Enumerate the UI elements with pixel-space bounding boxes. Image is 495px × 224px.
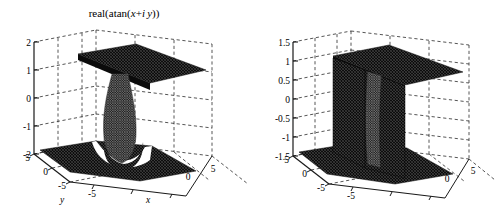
y-tick-label: 5 bbox=[284, 155, 289, 165]
z-tick-label: 0.5 bbox=[278, 76, 290, 86]
z-axis-ticks-left bbox=[34, 42, 39, 154]
x-tick-label: -5 bbox=[347, 191, 355, 201]
y-tick-label: -5 bbox=[317, 183, 325, 193]
axes-right: 1.5 1 0.5 0 -0.5 -1 -1.5 5 0 -5 bbox=[247, 0, 495, 224]
plot-panel-right: 1.5 1 0.5 0 -0.5 -1 -1.5 5 0 -5 bbox=[247, 0, 495, 224]
surface-left bbox=[40, 44, 206, 181]
z-axis-ticks-right bbox=[293, 42, 298, 156]
x-tick-label: 5 bbox=[211, 164, 216, 174]
z-tick-label: 0 bbox=[285, 95, 290, 105]
x-tick-label: 5 bbox=[471, 166, 476, 176]
axes-left: 2 1 0 -1 -2 5 0 -5 y bbox=[0, 0, 248, 224]
surface-wall-highlight-right bbox=[366, 72, 381, 167]
z-tick-label: 1 bbox=[26, 66, 31, 76]
x-axis-label-left: x bbox=[145, 195, 151, 205]
y-tick-label: 0 bbox=[302, 169, 307, 179]
figure-canvas: real(atan(x+i y)) bbox=[0, 0, 495, 224]
x-axis-ticks-right bbox=[351, 187, 431, 200]
z-tick-label: 1 bbox=[285, 57, 290, 67]
x-tick-label: -5 bbox=[88, 189, 96, 199]
z-axis-ticklabels-right: 1.5 1 0.5 0 -0.5 -1 -1.5 bbox=[275, 38, 290, 162]
z-tick-label: -0.5 bbox=[275, 114, 290, 124]
x-tick-label: 0 bbox=[186, 172, 191, 182]
y-tick-label: 5 bbox=[25, 153, 30, 163]
y-tick-label: -5 bbox=[58, 181, 66, 191]
z-tick-label: 1.5 bbox=[278, 38, 290, 48]
surface-wall-left-right bbox=[333, 58, 365, 168]
plot-panel-left: real(atan(x+i y)) bbox=[0, 0, 248, 224]
y-tick-label: 0 bbox=[43, 167, 48, 177]
surface-right bbox=[299, 45, 463, 184]
z-tick-label: 2 bbox=[26, 38, 31, 48]
x-axis-ticks-left bbox=[92, 185, 172, 198]
z-tick-label: 0 bbox=[26, 94, 31, 104]
y-axis-label-left: y bbox=[59, 195, 65, 205]
z-axis-ticklabels-left: 2 1 0 -1 -2 bbox=[23, 38, 31, 160]
z-tick-label: -1 bbox=[23, 122, 31, 132]
z-tick-label: -1 bbox=[282, 133, 290, 143]
